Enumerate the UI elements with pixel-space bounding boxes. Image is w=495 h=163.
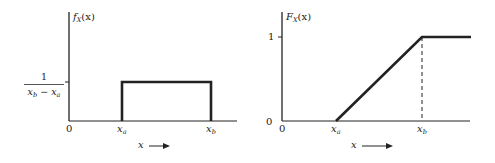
cdf-y-label: FX(x) [286,12,311,24]
pdf-x-label: x [138,140,144,150]
cdf-plot [278,12,471,121]
pdf-xb-label: xb [206,124,216,136]
pdf-y-label: fX(x) [73,12,95,24]
cdf-curve [336,37,471,121]
diagram-canvas [0,0,495,163]
cdf-x-arrow-icon [362,143,393,149]
cdf-origin-label: 0 [279,124,285,134]
cdf-xb-label: xb [417,124,427,136]
pdf-y-tick-label: 1 xb − xa [24,72,64,98]
cdf-y-zero-label: 0 [266,117,272,127]
cdf-xa-label: xa [331,124,341,136]
pdf-x-arrow-icon [149,143,170,149]
pdf-xa-label: xa [117,124,127,136]
pdf-curve [122,82,211,121]
pdf-plot [65,12,237,121]
pdf-origin-label: 0 [66,124,72,134]
cdf-x-label: x [351,140,357,150]
cdf-y-one-label: 1 [268,32,274,42]
